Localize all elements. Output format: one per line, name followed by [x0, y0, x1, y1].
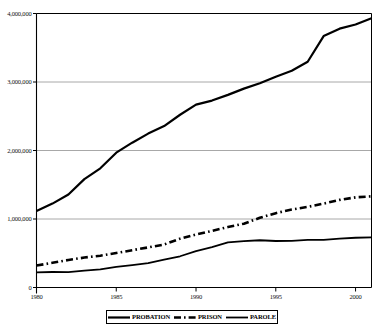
series-lines [37, 18, 372, 272]
y-axis-tick-label: 0 [0, 284, 32, 292]
legend-label: PAROLE [250, 313, 276, 321]
gridlines [37, 14, 372, 220]
series-line-parole [37, 237, 372, 272]
x-axis-tick-label: 1990 [176, 293, 216, 301]
y-axis-tick-label: 3,000,000 [0, 78, 32, 86]
chart-legend: PROBATIONPRISONPAROLE [106, 310, 278, 324]
y-axis-tick-label: 2,000,000 [0, 147, 32, 155]
dash-dot-line-icon [174, 314, 196, 321]
y-axis-tick-label: 4,000,000 [0, 10, 32, 18]
axis-ticks [33, 14, 356, 292]
solid-line-icon [226, 314, 248, 321]
axis-lines [37, 14, 372, 294]
legend-item-probation: PROBATION [108, 313, 170, 321]
plot-area [0, 0, 381, 332]
y-axis-tick-label: 1,000,000 [0, 215, 32, 223]
x-axis-tick-label: 2000 [336, 293, 376, 301]
series-line-probation [37, 18, 372, 211]
legend-item-prison: PRISON [174, 313, 222, 321]
x-axis-tick-label: 1995 [256, 293, 296, 301]
line-chart: 4,000,0003,000,0002,000,0001,000,0000 19… [0, 0, 381, 332]
legend-label: PROBATION [132, 313, 170, 321]
x-axis-tick-label: 1980 [17, 293, 57, 301]
legend-label: PRISON [198, 313, 222, 321]
legend-item-parole: PAROLE [226, 313, 276, 321]
series-line-prison [37, 196, 372, 265]
x-axis-tick-label: 1985 [96, 293, 136, 301]
solid-thick-line-icon [108, 314, 130, 321]
